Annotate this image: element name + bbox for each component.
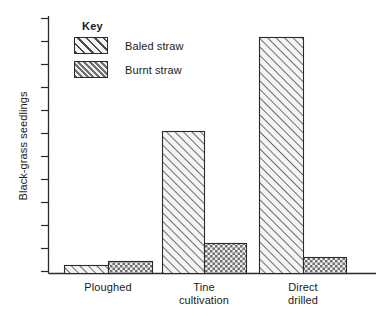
bar-direct-drilled-baled-straw (260, 38, 304, 274)
bar-chart: Black-grass seedlings Key Baled straw Bu… (0, 0, 383, 318)
bar-tine-cultivation-baled-straw (163, 132, 205, 274)
y-axis-ticks (41, 19, 49, 272)
bar-ploughed-burnt-straw (109, 262, 153, 274)
y-axis-title: Black-grass seedlings (17, 61, 29, 231)
legend-swatch-diagonal-hatch-icon (74, 37, 108, 54)
x-axis-label-direct-drilled: Direct drilled (253, 281, 353, 307)
legend-item-baled-straw: Baled straw (74, 37, 254, 54)
bar-direct-drilled-burnt-straw (304, 258, 347, 274)
x-axis-label-ploughed: Ploughed (58, 281, 158, 294)
legend-label-baled-straw: Baled straw (125, 40, 184, 52)
legend-item-burnt-straw: Burnt straw (74, 61, 254, 78)
bar-ploughed-baled-straw (65, 266, 109, 274)
legend-swatch-cross-hatch-icon (74, 61, 108, 78)
chart-legend: Key Baled straw Burnt straw (74, 20, 254, 85)
bar-group-tine-cultivation (163, 132, 247, 274)
bar-group-direct-drilled (260, 38, 347, 274)
x-axis-label-tine-cultivation: Tine cultivation (154, 281, 254, 307)
legend-title: Key (82, 20, 254, 32)
legend-label-burnt-straw: Burnt straw (125, 64, 182, 76)
bar-tine-cultivation-burnt-straw (205, 244, 247, 274)
bar-group-ploughed (65, 262, 153, 274)
